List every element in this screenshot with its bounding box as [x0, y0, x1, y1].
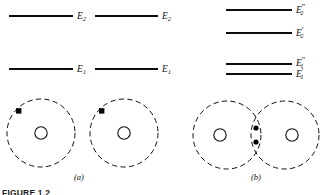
energy-label-E2-single-prime: E′2: [295, 25, 304, 40]
figure-caption: FIGURE 1.2: [2, 188, 50, 195]
electron-marker: [99, 108, 104, 113]
panel-a-atom-right: [90, 99, 158, 167]
energy-label-E2-left: E2: [76, 11, 87, 22]
electron-marker: [253, 139, 258, 144]
electron-marker: [253, 125, 258, 130]
nucleus-icon: [286, 129, 298, 141]
energy-label-E2-right: E2: [161, 11, 172, 22]
energy-label-E1-right: E1: [161, 64, 171, 75]
figure-diagram: E2 E2 E1 E1: [0, 0, 325, 195]
panel-b-caption: (b): [251, 172, 261, 182]
panel-a: E2 E2 E1 E1: [7, 11, 172, 182]
panel-b-shared-electrons: [253, 125, 258, 144]
nucleus-icon: [35, 127, 47, 139]
nucleus-icon: [214, 129, 226, 141]
energy-label-E1-double-prime: E″1: [295, 55, 306, 70]
energy-label-E1-left: E1: [76, 64, 86, 75]
energy-label-E2-double-prime: E″2: [295, 2, 306, 17]
nucleus-icon: [118, 127, 130, 139]
panel-b: E″2 E′2 E″1 E′1: [193, 2, 319, 182]
panel-a-caption: (a): [74, 172, 84, 182]
figure-container: E2 E2 E1 E1: [0, 0, 325, 195]
panel-a-atom-left: [7, 99, 75, 167]
electron-marker: [16, 108, 21, 113]
